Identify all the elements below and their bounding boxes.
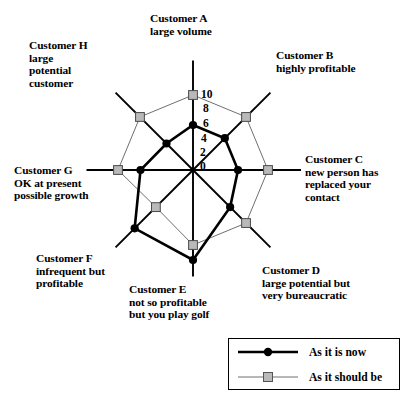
legend-item-as-it-is-now: As it is now xyxy=(229,339,401,365)
axis-label-customer-a: Customer A large volume xyxy=(150,12,212,37)
chart-legend: As it is now As it should be xyxy=(228,338,400,390)
radar-chart: 10 8 6 4 2 0 Customer A large volume Cus… xyxy=(0,0,418,412)
axis-label-customer-c: Customer C new person has replaced your … xyxy=(305,153,378,203)
legend-swatch-should xyxy=(229,364,307,390)
tick-label-0: 0 xyxy=(200,161,206,173)
tick-label-2: 2 xyxy=(200,147,206,159)
axis-label-customer-f: Customer F infrequent but profitable xyxy=(36,252,105,290)
legend-swatch-now xyxy=(229,339,307,365)
tick-label-6: 6 xyxy=(203,118,209,130)
axis-label-customer-b: Customer B highly profitable xyxy=(276,49,355,74)
tick-label-8: 8 xyxy=(203,103,209,115)
axis-label-customer-g: Customer G OK at present possible growth xyxy=(14,164,89,202)
axis-label-customer-h: Customer H large potential customer xyxy=(29,39,88,89)
series-as-it-is-now xyxy=(135,125,238,260)
legend-label-now: As it is now xyxy=(307,346,366,359)
axis-label-customer-e: Customer E not so profitable but you pla… xyxy=(129,283,209,321)
tick-label-4: 4 xyxy=(201,133,207,145)
legend-item-as-it-should-be: As it should be xyxy=(229,364,401,390)
axis-label-customer-d: Customer D large potential but very bure… xyxy=(262,264,350,302)
tick-label-10: 10 xyxy=(201,89,213,101)
legend-label-should: As it should be xyxy=(307,371,382,384)
